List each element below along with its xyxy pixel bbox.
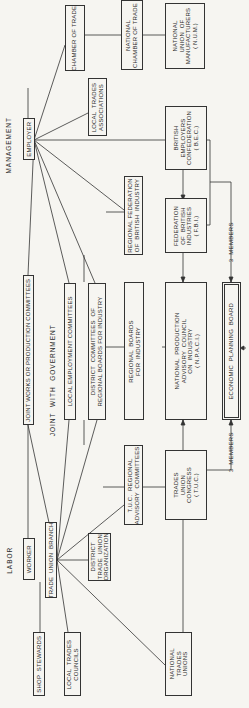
economic-planning-board-box: ECONOMIC PLANNING BOARD bbox=[222, 282, 241, 420]
npaci-box: NATIONAL PRODUCTION ADVISORY COUNCIL ON … bbox=[165, 282, 207, 420]
regional-federation-box: REGIONAL FEDERATION OF BRITISH INDUSTRY bbox=[124, 176, 143, 255]
local-trades-associations-box: LOCAL TRADES ASSOCIATIONS bbox=[88, 78, 107, 136]
management-heading: MANAGEMENT bbox=[2, 120, 16, 170]
district-trade-union-organization-box: DISTRICT TRADE UNION ORGANIZATION bbox=[88, 533, 111, 581]
members-label-upper: 3 MEMBERS bbox=[226, 222, 236, 262]
local-employment-committees-box: LOCAL EMPLOYMENT COMMITTEES bbox=[64, 283, 76, 420]
employer-box: EMPLOYER bbox=[23, 118, 35, 160]
shop-stewards-box: SHOP STEWARDS bbox=[33, 632, 45, 696]
regional-boards-box: REGIONAL BOARDS FOR INDUSTRY bbox=[124, 282, 144, 420]
district-committees-box: DISTRICT COMMITTEES OF REGIONAL BOARDS F… bbox=[88, 283, 106, 420]
joint-works-committees-box: JOINT WORKS OR PRODUCTION COMMITTEES bbox=[23, 275, 34, 425]
chamber-of-trade-box: CHAMBER OF TRADE bbox=[65, 5, 85, 71]
labor-heading: LABOR bbox=[4, 545, 18, 575]
members-label-lower: 3 MEMBERS bbox=[226, 432, 236, 472]
trade-union-branch-box: TRADE UNION BRANCH bbox=[45, 522, 57, 598]
worker-box: WORKER bbox=[23, 538, 35, 580]
tuc-regional-committees-box: T.U.C. REGIONAL ADVISORY COMMITTEES bbox=[124, 445, 143, 525]
bec-box: BRITISH EMPLOYERS CONFEDERATION ( B.E.C.… bbox=[165, 106, 207, 170]
num-box: NATIONAL UNION OF MANUFACTURERS ( N.U.M.… bbox=[165, 3, 205, 69]
national-chamber-of-trade-box: NATIONAL CHAMBER OF TRADE bbox=[121, 0, 143, 70]
fbi-box: FEDERATION OF BRITISH INDUSTRIES ( F.B.I… bbox=[165, 198, 207, 253]
joint-with-government-heading: JOINT WITH GOVERNMENT bbox=[46, 340, 60, 420]
tuc-box: TRADES UNION CONGRESS ( T.U.C.) bbox=[165, 450, 207, 520]
local-trades-councils-box: LOCAL TRADES COUNCILS bbox=[64, 632, 81, 696]
national-trades-unions-box: NATIONAL TRADES UNIONS bbox=[165, 632, 192, 696]
